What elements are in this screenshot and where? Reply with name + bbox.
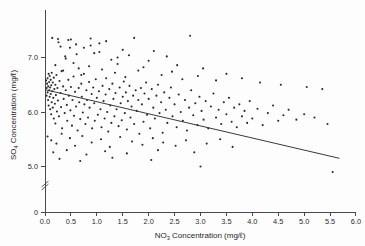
data-point <box>119 86 121 88</box>
data-point <box>46 87 48 89</box>
data-point <box>48 81 50 83</box>
data-point <box>85 153 87 155</box>
data-point <box>57 100 59 102</box>
data-point <box>50 113 52 115</box>
data-point <box>171 71 173 73</box>
data-point <box>162 132 164 134</box>
data-point <box>197 75 199 77</box>
data-point <box>50 79 52 81</box>
y-tick-label: 0 <box>34 208 38 217</box>
data-point <box>188 107 190 109</box>
data-point <box>153 50 155 52</box>
data-point <box>58 115 60 117</box>
data-point <box>97 114 99 116</box>
data-point <box>141 144 143 146</box>
x-tick-label: 4.5 <box>273 217 283 226</box>
data-point <box>175 145 177 147</box>
data-point <box>251 117 253 119</box>
data-point <box>90 44 92 46</box>
data-point <box>90 37 92 39</box>
data-point <box>50 139 52 141</box>
data-point <box>122 96 124 98</box>
data-point <box>282 114 284 116</box>
data-point <box>55 94 57 96</box>
data-point <box>118 125 120 127</box>
data-point <box>69 47 71 49</box>
data-point <box>83 73 85 75</box>
data-point <box>92 86 94 88</box>
data-point <box>84 123 86 125</box>
data-point <box>180 111 182 113</box>
data-point <box>122 49 124 51</box>
data-point <box>117 56 119 58</box>
data-point <box>55 74 57 76</box>
data-point <box>199 165 201 167</box>
data-point <box>133 123 135 125</box>
data-point <box>78 87 80 89</box>
data-point <box>148 98 150 100</box>
data-point <box>83 47 85 49</box>
data-point <box>140 87 142 89</box>
data-point <box>215 79 217 81</box>
data-point <box>131 140 133 142</box>
data-point <box>91 93 93 95</box>
data-point <box>106 111 108 113</box>
data-point <box>105 94 107 96</box>
data-point <box>246 122 248 124</box>
data-point <box>45 79 47 81</box>
data-point <box>119 136 121 138</box>
data-point <box>267 112 269 114</box>
data-point <box>49 96 51 98</box>
data-point <box>149 127 151 129</box>
x-tick-group: 0.00.51.01.52.02.53.03.54.04.55.05.56.0 <box>40 212 361 226</box>
data-point <box>295 119 297 121</box>
data-point <box>166 55 168 57</box>
data-point <box>49 86 51 88</box>
data-point <box>321 88 323 90</box>
data-point <box>200 110 202 112</box>
data-point <box>89 107 91 109</box>
data-point <box>75 106 77 108</box>
x-tick-label: 3.5 <box>221 217 231 226</box>
data-point <box>114 72 116 74</box>
data-point <box>117 63 119 65</box>
data-point <box>166 122 168 124</box>
data-point <box>103 100 105 102</box>
data-point <box>46 95 48 97</box>
data-point <box>99 108 101 110</box>
data-point <box>98 90 100 92</box>
data-point <box>98 51 100 53</box>
data-point <box>225 73 227 75</box>
data-point <box>108 88 110 90</box>
data-point <box>303 113 305 115</box>
data-point <box>332 171 334 173</box>
data-point <box>232 146 234 148</box>
data-point <box>70 38 72 40</box>
data-point <box>51 37 53 39</box>
data-point <box>306 86 308 88</box>
data-point <box>88 65 90 67</box>
data-point <box>198 96 200 98</box>
data-point <box>256 108 258 110</box>
data-point <box>69 137 71 139</box>
data-point <box>192 114 194 116</box>
data-point <box>54 103 56 105</box>
data-point <box>110 122 112 124</box>
data-point <box>47 77 49 79</box>
data-point <box>54 122 56 124</box>
data-point <box>212 92 214 94</box>
data-point <box>65 89 67 91</box>
data-point <box>111 83 113 85</box>
data-point <box>105 40 107 42</box>
data-point <box>128 85 130 87</box>
data-point <box>71 125 73 127</box>
data-point <box>141 103 143 105</box>
data-point <box>178 94 180 96</box>
data-point <box>231 121 233 123</box>
data-point <box>62 70 64 72</box>
data-points-group <box>45 35 334 173</box>
chart-canvas: 05.06.07.0 0.00.51.01.52.02.53.03.54.04.… <box>0 0 365 246</box>
data-point <box>58 158 60 160</box>
data-point <box>193 151 195 153</box>
regression-line <box>45 90 339 159</box>
